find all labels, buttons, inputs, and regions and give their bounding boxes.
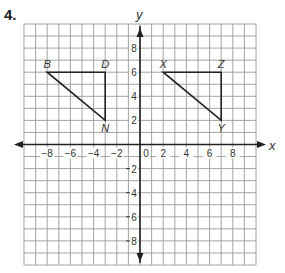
x-tick-label: 2 xyxy=(160,148,166,159)
y-axis-label: y xyxy=(135,7,144,22)
y-tick-label: 6 xyxy=(131,67,137,78)
x-tick-label: 4 xyxy=(184,148,190,159)
origin-label: 0 xyxy=(143,148,149,159)
y-tick-label: 4 xyxy=(131,91,137,102)
x-tick-label: −2 xyxy=(111,148,123,159)
vertex-label-D: D xyxy=(101,58,109,70)
vertex-label-X: X xyxy=(159,58,168,70)
x-axis-label: x xyxy=(268,138,276,153)
coordinate-plane: xy −8−6−4−22468086422468 BDNXZY xyxy=(0,0,285,273)
y-tick-label: 6 xyxy=(131,212,137,223)
x-tick-label: −8 xyxy=(41,148,53,159)
y-tick-label: 8 xyxy=(131,43,137,54)
vertex-label-Z: Z xyxy=(217,58,226,70)
x-axis-right-arrow-icon xyxy=(257,141,266,148)
y-tick-label: 2 xyxy=(131,164,137,175)
vertex-label-B: B xyxy=(44,58,51,70)
y-tick-label: 8 xyxy=(131,236,137,247)
vertex-label-Y: Y xyxy=(218,122,226,134)
x-tick-label: 6 xyxy=(207,148,213,159)
vertex-label-N: N xyxy=(101,122,109,134)
x-axis-left-arrow-icon xyxy=(14,141,23,148)
y-tick-label: 2 xyxy=(131,115,137,126)
axes: xy xyxy=(14,7,276,263)
x-tick-label: −4 xyxy=(88,148,100,159)
y-axis-down-arrow-icon xyxy=(137,253,144,262)
y-tick-label: 4 xyxy=(131,188,137,199)
x-tick-label: 8 xyxy=(230,148,236,159)
x-tick-label: −6 xyxy=(65,148,77,159)
y-axis-up-arrow-icon xyxy=(137,28,144,37)
